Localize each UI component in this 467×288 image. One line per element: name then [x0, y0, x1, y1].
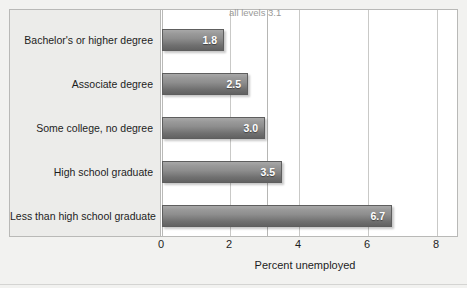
category-label: Some college, no degree: [10, 106, 153, 150]
chart-row: Bachelor's or higher degree 1.8: [10, 18, 457, 62]
bar: 6.7: [162, 205, 392, 227]
x-tick-label: 6: [364, 238, 370, 250]
bar-value-label: 2.5: [226, 74, 241, 94]
x-tick-label: 0: [158, 238, 164, 250]
bar-track: 6.7: [162, 194, 457, 238]
bar: 2.5: [162, 73, 248, 95]
chart-row: Less than high school graduate 6.7: [10, 194, 457, 238]
bar-track: 2.5: [162, 62, 457, 106]
bar-track: 3.0: [162, 106, 457, 150]
bar-track: 1.8: [162, 18, 457, 62]
x-axis: 0 2 4 6 8: [9, 238, 458, 256]
chart-row: High school graduate 3.5: [10, 150, 457, 194]
reference-line-annotation: all levels 3.1: [229, 7, 281, 18]
x-tick-label: 2: [226, 238, 232, 250]
bar: 3.0: [162, 117, 265, 139]
x-axis-title: Percent unemployed: [152, 259, 458, 271]
bar-value-label: 1.8: [202, 30, 217, 50]
category-label: Associate degree: [10, 62, 153, 106]
plot-frame: Bachelor's or higher degree 1.8 Associat…: [9, 9, 458, 237]
x-tick-label: 8: [433, 238, 439, 250]
category-label: Less than high school graduate: [10, 194, 153, 238]
bar: 1.8: [162, 29, 224, 51]
category-label: Bachelor's or higher degree: [10, 18, 153, 62]
chart-row: Associate degree 2.5: [10, 62, 457, 106]
bar-track: 3.5: [162, 150, 457, 194]
bar-value-label: 3.0: [243, 118, 258, 138]
bar-value-label: 3.5: [260, 162, 275, 182]
x-tick-label: 4: [295, 238, 301, 250]
bar-value-label: 6.7: [370, 206, 385, 226]
figure-baseline: [0, 284, 467, 285]
bar-chart-figure: Bachelor's or higher degree 1.8 Associat…: [0, 0, 467, 288]
bar: 3.5: [162, 161, 282, 183]
category-label: High school graduate: [10, 150, 153, 194]
chart-row: Some college, no degree 3.0: [10, 106, 457, 150]
